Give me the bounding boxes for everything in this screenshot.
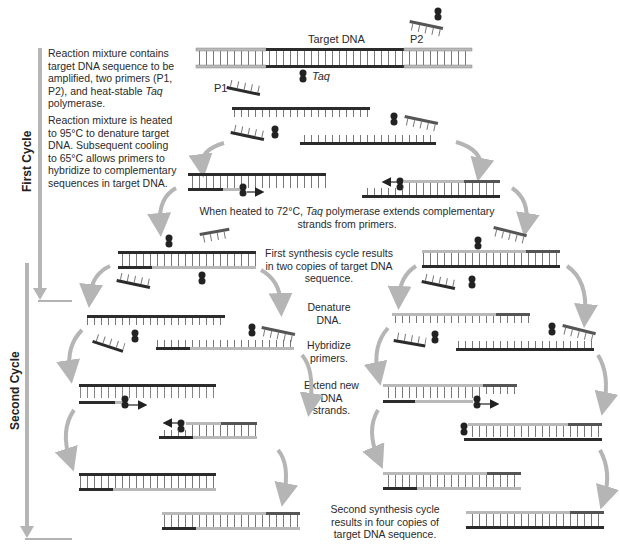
final-copy-3 <box>383 472 521 490</box>
copy-left <box>118 251 256 269</box>
taq-polymerase-icon <box>132 330 139 343</box>
copy-right <box>422 250 560 268</box>
free-primer <box>421 273 456 290</box>
taq-polymerase-icon <box>435 8 442 21</box>
final-copy-4 <box>466 511 604 529</box>
final-copy-2 <box>162 512 300 530</box>
free-primer <box>199 228 230 243</box>
c2-extend-3 <box>383 384 517 409</box>
final-copy-1 <box>79 473 216 491</box>
free-primer <box>492 226 527 244</box>
denatured-strand-top <box>232 107 370 117</box>
primer-p1 <box>226 79 261 96</box>
denatured-strand-bottom <box>300 135 436 145</box>
pcr-diagram <box>0 0 620 547</box>
taq-polymerase-icon <box>300 70 307 83</box>
c2-extend-2 <box>159 420 257 440</box>
primer <box>393 332 426 347</box>
c2-extend-4 <box>461 423 603 442</box>
c2-right-bottom-strand <box>456 341 594 351</box>
taq-polymerase-icon <box>432 331 439 344</box>
primer-p2-bound <box>403 115 438 132</box>
extension-right <box>362 178 500 199</box>
c2-left-top-strand <box>87 315 225 325</box>
taq-polymerase-icon <box>469 276 476 289</box>
taq-polymerase-icon <box>475 237 482 250</box>
c2-right-top-strand <box>392 313 530 323</box>
taq-polymerase-icon <box>166 235 173 248</box>
c2-extend-1 <box>79 384 216 409</box>
first-cycle-timeline <box>33 48 72 301</box>
extension-left <box>188 173 326 197</box>
c2-left-bottom-strand <box>156 340 294 350</box>
taq-polymerase-icon <box>549 323 556 336</box>
taq-polymerase-icon <box>249 324 256 337</box>
primer <box>92 333 126 352</box>
target-dna-duplex <box>196 48 472 68</box>
primer-p1-bound <box>230 124 265 141</box>
second-cycle-timeline <box>20 263 72 539</box>
free-primer <box>116 272 151 289</box>
primer-p2 <box>408 20 443 37</box>
taq-polymerase-icon <box>199 272 206 285</box>
taq-polymerase-icon <box>272 126 279 139</box>
primer <box>561 324 596 342</box>
taq-polymerase-icon <box>391 113 398 126</box>
